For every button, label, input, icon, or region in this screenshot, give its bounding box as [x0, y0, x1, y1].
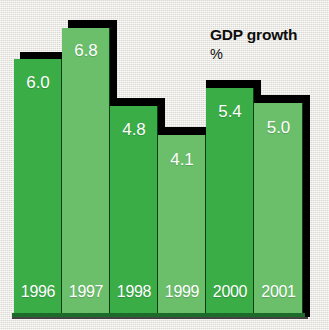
chart-unit-label: % [210, 46, 297, 63]
bar-year-2001: 2001 [254, 283, 303, 301]
gdp-growth-bar-chart: GDP growth % 6.0 6.8 4.8 4.1 5.4 5.0 199… [0, 0, 329, 330]
bar-shadow-right-2001 [302, 95, 310, 317]
bar-1997[interactable] [62, 28, 110, 313]
bar-value-2001: 5.0 [254, 118, 303, 138]
bar-value-2000: 5.4 [206, 102, 254, 122]
bar-year-1999: 1999 [158, 283, 206, 301]
bar-shadow-riser-1997 [110, 20, 117, 113]
bar-value-1996: 6.0 [14, 73, 62, 93]
bar-value-1998: 4.8 [110, 120, 158, 140]
bar-year-2000: 2000 [206, 283, 254, 301]
chart-title-block: GDP growth % [210, 26, 297, 63]
bar-value-1999: 4.1 [158, 150, 206, 170]
bar-year-1997: 1997 [62, 283, 110, 301]
bar-year-1998: 1998 [110, 283, 158, 301]
bar-year-1996: 1996 [14, 283, 62, 301]
bar-1996[interactable] [14, 59, 62, 313]
chart-baseline [12, 313, 305, 317]
bar-value-1997: 6.8 [62, 41, 110, 61]
chart-title: GDP growth [210, 26, 297, 43]
